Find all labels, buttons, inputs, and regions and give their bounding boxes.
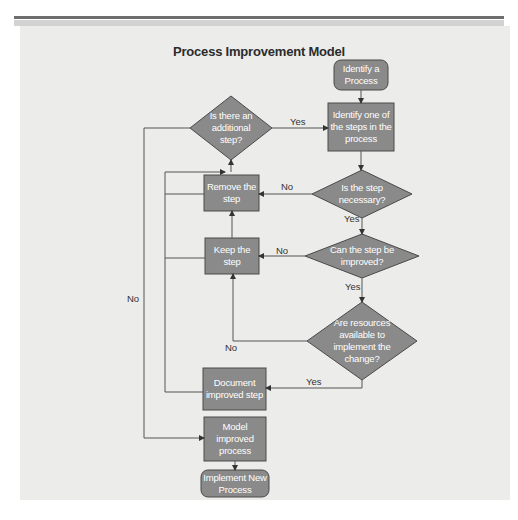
step-necessary-label: Is the step necessary? bbox=[335, 182, 389, 206]
implement-process-label: Implement New Process bbox=[201, 470, 269, 497]
label-improve-no: No bbox=[276, 245, 288, 256]
edge-resources-no bbox=[233, 274, 307, 341]
label-additional-yes: Yes bbox=[290, 116, 306, 127]
identify-process-label: Identify a Process bbox=[334, 60, 388, 90]
identify-step-label: Identify one of the steps in the process bbox=[330, 103, 392, 151]
document-step-label: Document improved step bbox=[205, 368, 264, 410]
label-improve-yes: Yes bbox=[345, 281, 361, 292]
can-improve-label: Can the step be improved? bbox=[326, 244, 398, 268]
label-additional-no: No bbox=[127, 293, 139, 304]
label-necessary-no: No bbox=[281, 181, 293, 192]
label-resources-no: No bbox=[225, 342, 237, 353]
label-resources-yes: Yes bbox=[306, 376, 322, 387]
label-necessary-yes: Yes bbox=[344, 213, 360, 224]
keep-step-label: Keep the step bbox=[205, 238, 259, 274]
additional-step-label: Is there an additional step? bbox=[203, 110, 259, 146]
model-process-label: Model improved process bbox=[206, 417, 264, 461]
resources-available-label: Are resources available to implement the… bbox=[331, 317, 393, 365]
remove-step-label: Remove the step bbox=[204, 175, 259, 211]
